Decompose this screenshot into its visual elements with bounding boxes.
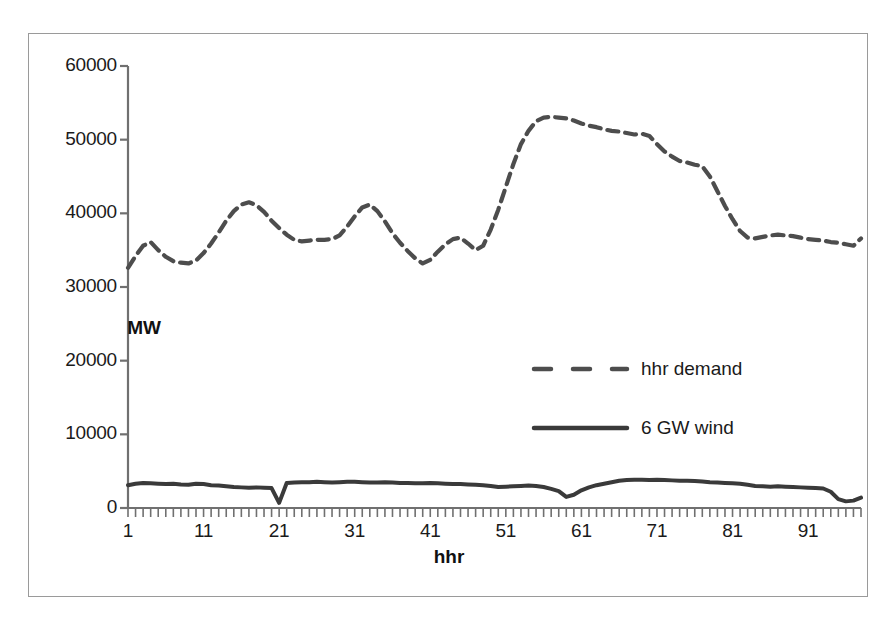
series-line-6-gw-wind xyxy=(128,480,861,503)
chart-axes xyxy=(120,66,861,517)
chart-legend-marks xyxy=(534,369,627,428)
series-line-hhr-demand xyxy=(128,117,861,268)
chart-svg-canvas xyxy=(29,34,869,598)
x-tick-label-61: 61 xyxy=(551,520,611,542)
y-tick-label-40000: 40000 xyxy=(25,201,117,223)
y-tick-label-20000: 20000 xyxy=(25,349,117,371)
y-tick-label-50000: 50000 xyxy=(25,128,117,150)
x-tick-label-71: 71 xyxy=(627,520,687,542)
x-tick-label-41: 41 xyxy=(400,520,460,542)
x-tick-label-91: 91 xyxy=(778,520,838,542)
y-axis-title: MW xyxy=(69,317,161,339)
x-tick-label-11: 11 xyxy=(174,520,234,542)
y-tick-label-0: 0 xyxy=(25,496,117,518)
y-tick-label-30000: 30000 xyxy=(25,275,117,297)
legend-item-6gw-wind-label: 6 GW wind xyxy=(641,417,734,439)
x-axis-title: hhr xyxy=(29,546,869,568)
chart-figure-frame: 0100002000030000400005000060000 11121314… xyxy=(28,33,868,597)
x-tick-label-81: 81 xyxy=(703,520,763,542)
chart-plot-area: 0100002000030000400005000060000 11121314… xyxy=(29,34,867,596)
x-tick-label-51: 51 xyxy=(476,520,536,542)
chart-series xyxy=(128,117,861,503)
y-tick-label-10000: 10000 xyxy=(25,422,117,444)
legend-item-hhr-demand-label: hhr demand xyxy=(641,358,742,380)
y-tick-label-60000: 60000 xyxy=(25,54,117,76)
x-tick-label-31: 31 xyxy=(325,520,385,542)
x-tick-label-21: 21 xyxy=(249,520,309,542)
x-tick-label-1: 1 xyxy=(98,520,158,542)
